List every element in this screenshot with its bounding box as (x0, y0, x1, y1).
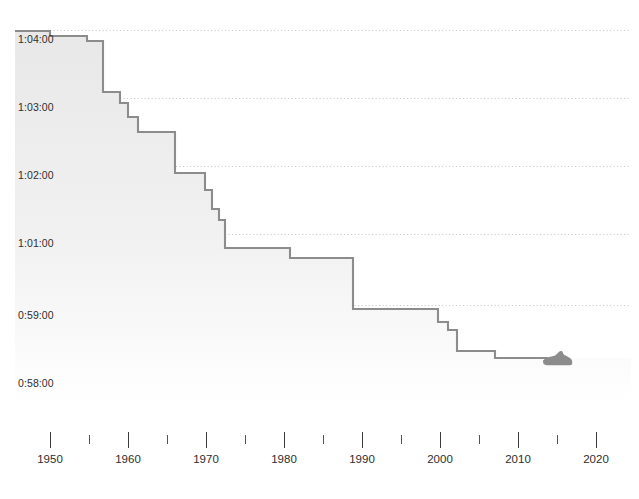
x-tick-major-1970 (206, 432, 207, 448)
y-axis-label-0: 1:04:00 (18, 34, 54, 45)
chart-canvas: 1:04:00 1:03:00 1:02:00 1:01:00 0:59:00 … (0, 0, 639, 499)
y-axis-label-3: 1:01:00 (18, 238, 54, 249)
x-axis-label-1990: 1990 (349, 454, 375, 466)
x-axis-label-2000: 2000 (427, 454, 453, 466)
x-axis-label-2010: 2010 (505, 454, 531, 466)
x-tick-major-1980 (284, 432, 285, 448)
plot-area: 1:04:00 1:03:00 1:02:00 1:01:00 0:59:00 … (0, 0, 639, 410)
x-tick-minor-1965 (167, 435, 168, 444)
x-tick-major-1960 (128, 432, 129, 448)
x-axis-label-1950: 1950 (37, 454, 63, 466)
y-axis-label-4: 0:59:00 (18, 310, 54, 321)
x-tick-major-2010 (518, 432, 519, 448)
y-axis-label-1: 1:03:00 (18, 102, 54, 113)
x-axis-label-2020: 2020 (583, 454, 609, 466)
x-tick-minor-2015 (557, 435, 558, 444)
x-axis: 1950 1960 1970 1980 1990 2000 2010 2020 (0, 432, 639, 492)
x-tick-minor-1975 (245, 435, 246, 444)
x-axis-label-1960: 1960 (115, 454, 141, 466)
x-axis-label-1980: 1980 (271, 454, 297, 466)
x-axis-label-1970: 1970 (193, 454, 219, 466)
x-tick-minor-1985 (323, 435, 324, 444)
y-axis-label-5: 0:58:00 (18, 378, 54, 389)
x-tick-minor-1955 (89, 435, 90, 444)
record-area-fill (15, 31, 631, 405)
x-tick-minor-1995 (401, 435, 402, 444)
x-tick-minor-2005 (479, 435, 480, 444)
y-axis-label-2: 1:02:00 (18, 170, 54, 181)
x-tick-major-1950 (50, 432, 51, 448)
running-shoe-icon (541, 347, 575, 369)
x-tick-major-2020 (596, 432, 597, 448)
x-tick-major-2000 (440, 432, 441, 448)
x-tick-major-1990 (362, 432, 363, 448)
